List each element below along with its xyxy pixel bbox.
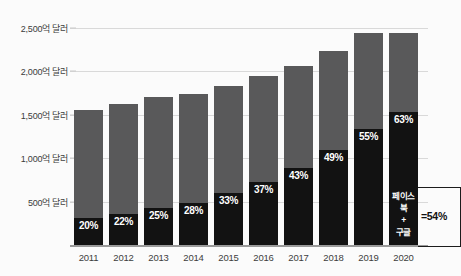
data-label-2020: 63% xyxy=(389,114,418,125)
annotation-line-1: 페이스북 xyxy=(389,190,418,214)
bar-2016: 37% xyxy=(249,76,278,245)
y-axis-tick-label: 2,500억 달러 xyxy=(0,22,68,35)
data-label-2014: 28% xyxy=(179,205,208,216)
annotation-line-3: 구글 xyxy=(389,226,418,238)
bar-segment-facebook-google-2018 xyxy=(319,150,348,245)
y-axis-tick-label: 1,000억 달러 xyxy=(0,152,68,165)
bar-2017: 43% xyxy=(284,66,313,245)
data-label-2013: 25% xyxy=(144,210,173,221)
data-label-2016: 37% xyxy=(249,184,278,195)
data-label-2015: 33% xyxy=(214,195,243,206)
gridline xyxy=(70,28,428,29)
y-axis-tick-label: 1,500억 달러 xyxy=(0,108,68,121)
bar-2013: 25% xyxy=(144,97,173,245)
y-axis-tick-mark xyxy=(70,71,76,72)
bar-2019: 55% xyxy=(354,33,383,245)
y-axis-tick-label: 2,000억 달러 xyxy=(0,65,68,78)
annotation-line-2: + xyxy=(389,214,418,226)
bar-segment-facebook-google-2019 xyxy=(354,129,383,245)
annotation-label: 페이스북+구글 xyxy=(389,190,418,238)
bar-2015: 33% xyxy=(214,86,243,245)
data-label-2018: 49% xyxy=(319,152,348,163)
data-label-2011: 20% xyxy=(74,220,103,231)
data-label-2012: 22% xyxy=(109,216,138,227)
x-axis-label-2020: 2020 xyxy=(382,252,426,263)
y-axis-tick-label: 500억 달러 xyxy=(0,195,68,208)
x-axis-line xyxy=(70,245,428,247)
bar-2018: 49% xyxy=(319,51,348,245)
data-label-2019: 55% xyxy=(354,131,383,142)
bar-2011: 20% xyxy=(74,110,103,245)
data-label-2017: 43% xyxy=(284,170,313,181)
y-axis-tick-mark xyxy=(70,28,76,29)
bar-2014: 28% xyxy=(179,94,208,245)
annotation-value: =54% xyxy=(421,210,447,222)
bar-2012: 22% xyxy=(109,104,138,245)
